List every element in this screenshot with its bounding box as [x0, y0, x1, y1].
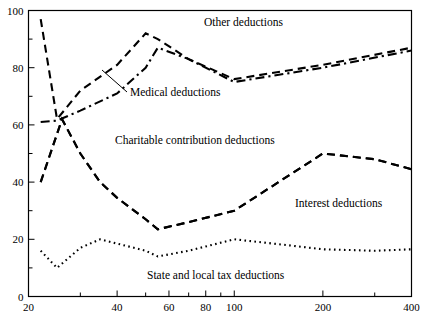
x-tick-label-40: 40	[112, 301, 124, 313]
y-tick-label-80: 80	[13, 62, 25, 74]
chart-container: 020406080100 20406080100200400 Other ded…	[0, 0, 429, 321]
x-tick-label-100: 100	[226, 301, 243, 313]
annotation-charitable-contribution-deductions: Charitable contribution deductions	[115, 134, 275, 146]
x-tick-label-20: 20	[23, 301, 35, 313]
annotation-interest-deductions: Interest deductions	[295, 197, 383, 209]
annotation-medical-deductions: Medical deductions	[130, 86, 221, 98]
annotation-other-deductions: Other deductions	[204, 16, 283, 28]
x-tick-label-60: 60	[163, 301, 175, 313]
x-tick-label-400: 400	[403, 301, 420, 313]
line-chart: 020406080100 20406080100200400 Other ded…	[0, 0, 429, 321]
y-tick-label-100: 100	[7, 5, 24, 17]
x-tick-label-80: 80	[200, 301, 212, 313]
annotation-state-and-local-tax-deductions: State and local tax deductions	[147, 269, 285, 281]
y-tick-label-20: 20	[13, 233, 25, 245]
x-tick-label-200: 200	[315, 301, 332, 313]
y-tick-label-40: 40	[13, 176, 25, 188]
y-tick-label-60: 60	[13, 119, 25, 131]
